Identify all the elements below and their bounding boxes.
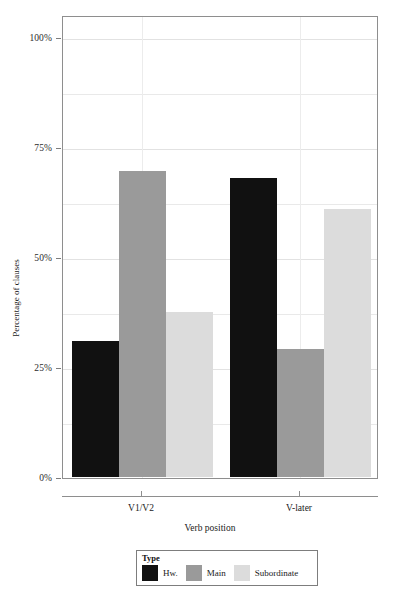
- y-tick-mark: [56, 38, 61, 39]
- y-tick-label: 75%: [0, 143, 52, 153]
- y-tick-label: 50%: [0, 253, 52, 263]
- bar-hw-v-later: [230, 178, 277, 477]
- legend: Type Hw.MainSubordinate: [136, 550, 318, 586]
- gridline: [63, 149, 377, 150]
- legend-item[interactable]: Main: [186, 565, 234, 581]
- bar-hw-v1-v2: [72, 341, 119, 477]
- legend-swatch: [186, 565, 202, 581]
- bar-main-v-later: [277, 349, 324, 477]
- y-tick-label: 0%: [0, 473, 52, 483]
- y-tick-label: 100%: [0, 33, 52, 43]
- gridline: [63, 39, 377, 40]
- legend-item[interactable]: Hw.: [142, 565, 186, 581]
- bar-subordinate-v1-v2: [166, 312, 213, 477]
- y-tick-mark: [56, 478, 61, 479]
- y-tick-mark: [56, 148, 61, 149]
- legend-label: Subordinate: [255, 568, 299, 578]
- legend-label: Main: [207, 568, 226, 578]
- bar-main-v1-v2: [119, 171, 166, 477]
- legend-item[interactable]: Subordinate: [234, 565, 307, 581]
- bar-chart-figure: Percentage of clauses 0%25%50%75%100% V1…: [0, 0, 420, 595]
- x-axis-line: [62, 496, 378, 497]
- x-tick-label: V-later: [286, 503, 312, 513]
- x-tick-label: V1/V2: [128, 503, 154, 513]
- gridline-minor: [63, 204, 377, 205]
- y-tick-label: 25%: [0, 363, 52, 373]
- legend-swatch: [142, 565, 158, 581]
- y-tick-mark: [56, 258, 61, 259]
- legend-label: Hw.: [163, 568, 178, 578]
- y-tick-mark: [56, 368, 61, 369]
- legend-swatch: [234, 565, 250, 581]
- x-tick-mark: [299, 491, 300, 497]
- bar-subordinate-v-later: [324, 209, 371, 477]
- gridline-minor: [63, 94, 377, 95]
- plot-panel: [62, 16, 378, 479]
- legend-items: Hw.MainSubordinate: [142, 565, 314, 581]
- legend-title: Type: [142, 553, 160, 563]
- x-axis-title: Verb position: [0, 523, 420, 533]
- x-tick-mark: [141, 491, 142, 497]
- y-axis-title: Percentage of clauses: [11, 259, 21, 336]
